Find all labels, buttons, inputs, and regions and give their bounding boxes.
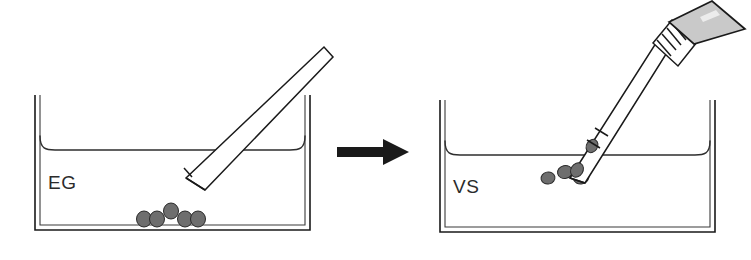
dish-label-vs: VS <box>453 176 479 197</box>
pipette-tube-left <box>186 47 333 190</box>
vitrification-dish-panel: VS <box>440 1 745 232</box>
process-arrow <box>337 139 409 165</box>
dish-label-eg: EG <box>48 172 76 193</box>
liquid-surface-right <box>445 141 710 155</box>
liquid-surface-left <box>40 136 305 150</box>
arrow-glyph <box>337 139 409 165</box>
pellet <box>150 211 165 227</box>
transfer-process-diagram: EG <box>0 0 751 260</box>
pellet <box>191 211 206 227</box>
pellet <box>164 203 179 219</box>
pipette-tube-right <box>570 43 668 183</box>
pellet-group-left <box>137 203 206 227</box>
diagram-canvas: EG <box>0 0 751 260</box>
equilibration-dish-panel: EG <box>35 47 333 230</box>
pellet <box>540 171 556 186</box>
